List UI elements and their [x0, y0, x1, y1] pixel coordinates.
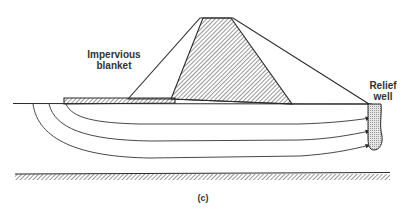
- impervious-blanket-label: Impervious blanket: [83, 49, 145, 71]
- blanket-label-line1: Impervious: [83, 49, 145, 60]
- seepage-flow-lines: [33, 104, 370, 158]
- well-label-line2: well: [360, 91, 406, 102]
- flow-line-middle: [49, 104, 370, 141]
- impervious-base-layer: [15, 173, 390, 181]
- figure-caption: (c): [190, 193, 216, 204]
- well-label-line1: Relief: [360, 80, 406, 91]
- flow-line-upper: [66, 104, 370, 124]
- relief-well: [368, 104, 382, 150]
- ground-surface: [13, 104, 372, 105]
- relief-well-label: Relief well: [360, 80, 406, 102]
- blanket-label-line2: blanket: [83, 60, 145, 71]
- flow-line-lower: [33, 104, 370, 158]
- dam-seepage-diagram: [0, 0, 406, 214]
